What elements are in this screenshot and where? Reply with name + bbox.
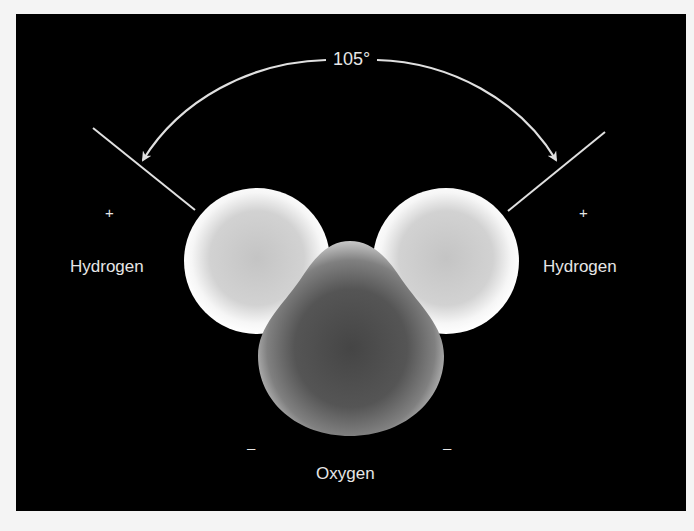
oxygen-charge-left: –: [247, 440, 255, 455]
hydrogen-right-label: Hydrogen: [543, 258, 617, 275]
right-bond-line: [508, 132, 605, 211]
angle-label: 105°: [333, 50, 370, 68]
angle-arc-left: [143, 60, 326, 160]
oxygen-charge-right: –: [443, 440, 451, 455]
left-bond-line: [93, 128, 195, 210]
angle-arc-right: [377, 60, 556, 160]
hydrogen-left-charge: +: [105, 205, 114, 220]
hydrogen-left-label: Hydrogen: [70, 258, 144, 275]
oxygen-label: Oxygen: [316, 465, 375, 482]
hydrogen-right-charge: +: [579, 205, 588, 220]
